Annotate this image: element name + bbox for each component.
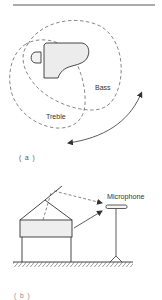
piano-bench-icon bbox=[31, 52, 41, 63]
microphone-icon bbox=[106, 205, 127, 209]
floor-hatching bbox=[13, 262, 133, 267]
reflected-sound-arrow bbox=[54, 191, 102, 203]
direct-sound-arrow bbox=[74, 211, 102, 228]
panel-a-diagram bbox=[10, 20, 140, 143]
panel-a-caption: ( a ) bbox=[19, 154, 36, 162]
piano-open-lid bbox=[45, 186, 62, 200]
microphone-label: Microphone bbox=[107, 193, 145, 201]
bass-label: Bass bbox=[95, 84, 111, 92]
panel-b-caption: ( b ) bbox=[14, 292, 31, 300]
internal-sound-path bbox=[43, 193, 51, 220]
piano-body bbox=[20, 220, 72, 237]
rotation-double-arrow bbox=[68, 96, 140, 143]
microphone-stand-base bbox=[110, 256, 122, 262]
treble-label: Treble bbox=[46, 113, 66, 121]
figure-canvas bbox=[0, 0, 162, 300]
grand-piano-top-icon bbox=[44, 43, 89, 78]
